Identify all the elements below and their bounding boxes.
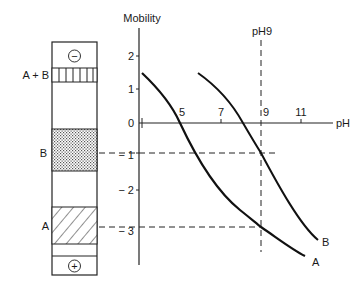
curve-a-label: A	[312, 256, 320, 268]
y-tick-label: 1	[128, 83, 134, 95]
x-tick-label: 9	[263, 106, 269, 118]
y-tick-label: − 1	[118, 149, 134, 161]
y-tick-label: 0	[128, 117, 134, 129]
mobility-chart: Mobility pH 2 1 0 − 1 − 2 − 3 5 7 9 11 p…	[99, 12, 350, 268]
cathode-symbol: −	[71, 50, 77, 62]
gel-strip: − A + B B A +	[22, 42, 97, 275]
ph9-label: pH9	[252, 25, 272, 37]
band-b-label: B	[40, 147, 47, 159]
y-axis-label: Mobility	[123, 12, 161, 24]
x-axis-label: pH	[336, 117, 350, 129]
electrophoresis-diagram: − A + B B A + Mobility pH	[0, 0, 358, 289]
anode-symbol: +	[71, 260, 77, 272]
band-b	[52, 129, 97, 171]
curve-a	[142, 73, 305, 256]
curve-b	[198, 73, 318, 240]
band-ab	[52, 68, 97, 82]
band-a-label: A	[42, 220, 50, 232]
x-tick-label: 5	[179, 106, 185, 118]
y-tick-label: − 2	[118, 184, 134, 196]
curve-b-label: B	[322, 236, 329, 248]
x-tick-label: 7	[218, 106, 224, 118]
y-tick-label: 2	[128, 50, 134, 62]
band-a	[52, 207, 97, 244]
band-ab-label: A + B	[22, 69, 49, 81]
x-tick-label: 11	[295, 106, 306, 118]
